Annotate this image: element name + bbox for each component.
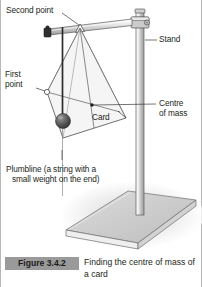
vertical-stand-rod bbox=[135, 9, 145, 215]
figure-container: Second point First point Stand Centre of… bbox=[0, 0, 202, 287]
label-card: Card bbox=[92, 113, 110, 123]
label-plumbline-line2: small weight on the end) bbox=[12, 175, 100, 185]
first-point-marker bbox=[44, 89, 49, 94]
label-centre-of-mass-line2: of mass bbox=[159, 109, 187, 119]
label-stand: Stand bbox=[159, 35, 180, 45]
figure-caption-bar: Figure 3.4.2 Finding the centre of mass … bbox=[0, 255, 202, 287]
leader-second-point bbox=[62, 13, 79, 25]
centre-of-mass-point bbox=[90, 103, 93, 106]
horizontal-rod bbox=[44, 19, 132, 37]
figure-number-tag: Figure 3.4.2 bbox=[5, 257, 79, 270]
figure-number-label: Figure 3.4.2 bbox=[5, 257, 79, 270]
figure-caption-text: Finding the centre of mass of a card bbox=[84, 257, 200, 280]
label-second-point: Second point bbox=[6, 6, 53, 16]
label-first-point-line2: point bbox=[5, 80, 23, 90]
plumb-bob bbox=[56, 114, 71, 129]
leader-first-point bbox=[36, 88, 45, 91]
boss-clamp bbox=[131, 17, 150, 28]
